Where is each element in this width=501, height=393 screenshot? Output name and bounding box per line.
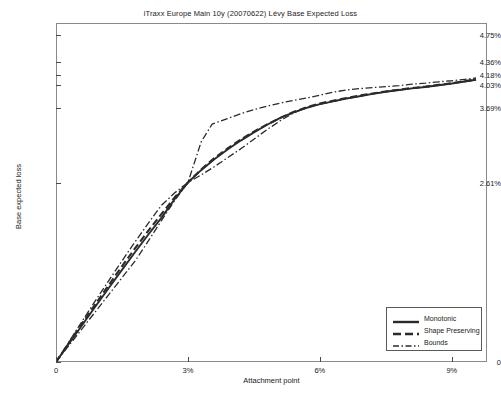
legend-item-label: Monotonic: [424, 315, 456, 322]
legend-line-swatch: [392, 337, 420, 347]
page-title: iTraxx Europe Main 10y (20070622) Lévy B…: [0, 9, 501, 18]
legend-item-shape-preserving[interactable]: Shape Preserving: [392, 324, 477, 336]
x-tick-label: 6%: [300, 366, 340, 375]
y-tick-label: 4.75%: [455, 31, 501, 40]
legend-item-label: Bounds: [424, 339, 448, 346]
legend-item-monotonic[interactable]: Monotonic: [392, 312, 477, 324]
legend-item-bounds[interactable]: Bounds: [392, 336, 477, 348]
legend-line-swatch: [392, 313, 420, 323]
legend-item-label: Shape Preserving: [424, 327, 480, 334]
y-tick-label: 4.36%: [455, 58, 501, 67]
x-tick-label: 0: [36, 366, 76, 375]
x-tick-mark: [188, 357, 189, 362]
chart-figure: iTraxx Europe Main 10y (20070622) Lévy B…: [0, 0, 501, 393]
y-tick-mark: [56, 362, 61, 363]
x-tick-label: 3%: [168, 366, 208, 375]
x-tick-mark: [56, 357, 57, 362]
y-axis-label: Base expected loss: [14, 127, 23, 267]
x-tick-mark: [452, 357, 453, 362]
y-tick-mark: [56, 183, 61, 184]
legend-line-swatch: [392, 325, 420, 335]
y-tick-label: 2.61%: [455, 178, 501, 187]
x-tick-label: 9%: [432, 366, 472, 375]
y-tick-mark: [56, 35, 61, 36]
y-tick-mark: [56, 62, 61, 63]
y-tick-mark: [56, 108, 61, 109]
x-tick-mark: [320, 357, 321, 362]
chart-legend[interactable]: MonotonicShape PreservingBounds: [386, 307, 482, 351]
y-tick-label: 3.69%: [455, 104, 501, 113]
y-tick-mark: [56, 75, 61, 76]
y-axis-tick-labels: [0, 0, 52, 393]
y-tick-mark: [56, 85, 61, 86]
x-axis-label: Attachment point: [56, 376, 487, 385]
y-tick-label: 4.18%: [455, 70, 501, 79]
y-tick-label: 4.03%: [455, 80, 501, 89]
